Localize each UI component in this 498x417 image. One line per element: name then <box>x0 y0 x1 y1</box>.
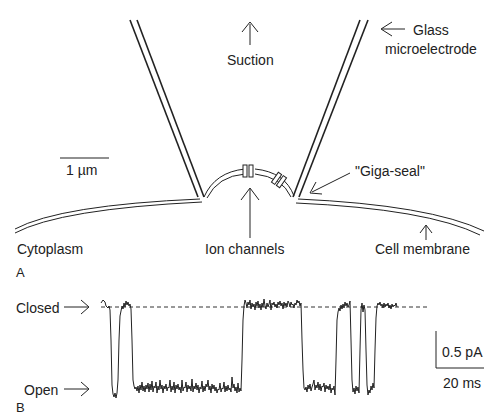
scale-current-label: 0.5 pA <box>442 344 482 360</box>
glass-label-line2: microelectrode <box>385 41 477 57</box>
panel-b-letter: B <box>16 400 25 415</box>
ion-channel-2 <box>271 172 286 188</box>
left-pipette <box>130 20 204 197</box>
giga-seal-arrow-icon <box>312 173 350 192</box>
closed-label: Closed <box>16 300 60 316</box>
scale-time-label: 20 ms <box>443 375 481 391</box>
ion-channels-label: Ion channels <box>205 241 284 257</box>
patch-clamp-figure: Suction Glass microelectrode 1 µm "Giga-… <box>0 0 498 417</box>
cytoplasm-label: Cytoplasm <box>17 241 83 257</box>
scale-bar-label: 1 µm <box>66 162 97 178</box>
panel-a-letter: A <box>16 265 25 280</box>
giga-seal-label: "Giga-seal" <box>355 163 425 179</box>
ion-channel-1 <box>243 165 253 177</box>
cell-membrane-label: Cell membrane <box>375 241 470 257</box>
single-channel-current-trace <box>101 299 397 398</box>
cell-membrane-left <box>15 199 202 233</box>
open-label: Open <box>24 382 58 398</box>
cell-membrane-right <box>296 199 484 235</box>
glass-label-line1: Glass <box>413 22 449 38</box>
suction-label: Suction <box>227 52 274 68</box>
